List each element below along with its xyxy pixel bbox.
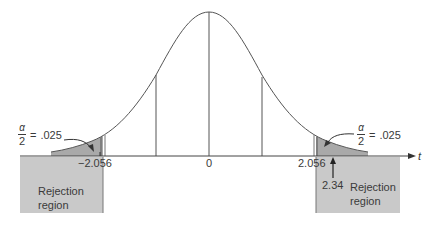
left-equals-sign: = [30,129,36,141]
right-equals-sign: = [369,129,375,141]
axis-variable-label: t [418,151,421,162]
left-alpha-denominator: 2 [19,136,25,147]
left-region-line2: region [38,198,84,212]
right-region-line1: Rejection [350,180,396,194]
left-rejection-region-label: Rejection region [38,184,84,212]
tick-label-right-critical: 2.056 [298,158,326,169]
left-region-line1: Rejection [38,184,84,198]
right-alpha-numerator: α [358,123,364,133]
left-alpha-label: α 2 = .025 [18,123,62,147]
right-alpha-label: α 2 = .025 [357,123,401,147]
right-region-line2: region [350,194,396,208]
right-alpha-value: .025 [379,129,400,141]
tick-label-center: 0 [206,158,212,169]
tick-label-left-critical: −2.056 [78,158,112,169]
axis-arrow-icon [408,153,416,159]
test-statistic-label: 2.34 [322,180,343,191]
t-distribution-diagram: α 2 = .025 α 2 = .025 −2.056 0 2.056 t 2… [0,0,424,231]
right-alpha-pointer-arrow [328,134,354,142]
left-alpha-numerator: α [19,123,25,133]
right-rejection-region-label: Rejection region [350,180,396,208]
left-alpha-value: .025 [40,129,61,141]
right-alpha-denominator: 2 [358,136,364,147]
